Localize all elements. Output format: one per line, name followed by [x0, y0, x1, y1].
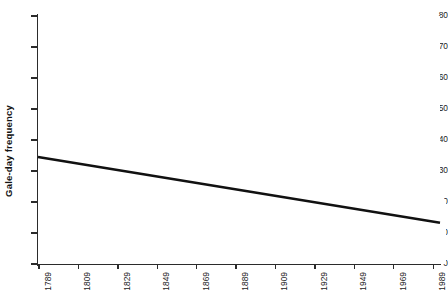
- bar: [444, 199, 446, 264]
- y-axis-tick: [31, 170, 37, 171]
- y-axis-tick: [31, 108, 37, 109]
- y-axis-tick: [31, 232, 37, 233]
- x-axis-tick: [433, 264, 434, 269]
- x-axis-tick: [117, 264, 118, 269]
- y-axis-tick: [31, 201, 37, 202]
- y-axis-tick: [31, 46, 37, 47]
- x-axis-tick: [157, 264, 158, 269]
- x-axis-tick: [235, 264, 236, 269]
- y-axis-tick: [31, 139, 37, 140]
- x-axis-tick-label: 1789: [43, 272, 53, 291]
- x-axis-tick-label: 1849: [161, 272, 171, 291]
- x-axis-tick-label: 1929: [319, 272, 329, 291]
- x-axis-tick-label: 1889: [240, 272, 250, 291]
- y-axis-tick: [31, 15, 37, 16]
- x-axis-tick: [354, 264, 355, 269]
- x-axis-tick: [314, 264, 315, 269]
- x-axis-tick-label: 1989: [437, 272, 447, 291]
- plot-area: [38, 16, 440, 264]
- bar-series: [38, 16, 440, 264]
- y-axis-tick: [31, 263, 37, 264]
- gale-day-frequency-chart: Gale-day frequency 01020304050607080 178…: [0, 0, 448, 302]
- x-axis-tick-label: 1909: [279, 272, 289, 291]
- x-axis-tick: [38, 264, 39, 269]
- x-axis-tick-label: 1809: [82, 272, 92, 291]
- x-axis-tick: [275, 264, 276, 269]
- x-axis-line: [37, 264, 441, 265]
- x-axis-tick-label: 1869: [201, 272, 211, 291]
- y-axis-title: Gale-day frequency: [0, 0, 17, 302]
- x-axis-tick-label: 1949: [358, 272, 368, 291]
- x-axis-tick-label: 1829: [122, 272, 132, 291]
- x-axis-tick-label: 1969: [398, 272, 408, 291]
- x-axis-tick: [393, 264, 394, 269]
- y-axis-tick: [31, 77, 37, 78]
- x-axis-tick: [78, 264, 79, 269]
- x-axis-tick: [196, 264, 197, 269]
